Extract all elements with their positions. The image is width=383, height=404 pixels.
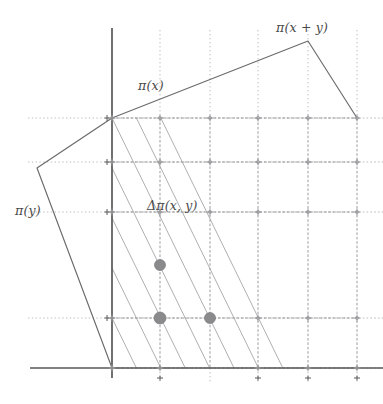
lattice-point-0 <box>109 115 116 122</box>
filled-lattice-dot-1 <box>155 260 166 271</box>
filled-lattice-points-layer <box>154 260 216 325</box>
lattice-point-9 <box>255 159 262 166</box>
lattice-point-22 <box>109 365 116 372</box>
diagonal-line-0 <box>161 118 283 368</box>
dotted-grid-layer <box>28 30 383 384</box>
filled-lattice-dot-2 <box>154 312 166 324</box>
lattice-point-23 <box>157 365 164 372</box>
diagonal-line-1 <box>136 118 258 368</box>
lattice-point-18 <box>109 315 116 322</box>
lattice-point-16 <box>305 209 312 216</box>
tick-marks-layer <box>105 115 361 381</box>
label-delta-pi-x-y: Δπ(x, y) <box>147 198 198 213</box>
lattice-point-7 <box>157 159 164 166</box>
lattice-point-19 <box>255 315 262 322</box>
diagonal-line-4 <box>112 218 185 368</box>
lattice-point-10 <box>305 159 312 166</box>
lattice-point-24 <box>255 365 262 372</box>
newton-polygon-figure: π(x + y) π(x) π(y) Δπ(x, y) <box>0 0 383 404</box>
lattice-point-2 <box>207 115 214 122</box>
lattice-point-25 <box>305 365 312 372</box>
label-pi-x: π(x) <box>138 78 164 93</box>
lattice-point-12 <box>109 209 116 216</box>
lattice-point-4 <box>305 115 312 122</box>
lattice-point-5 <box>354 115 361 122</box>
diagonal-lines-layer <box>112 118 283 368</box>
lattice-point-21 <box>354 315 361 322</box>
lattice-point-3 <box>255 115 262 122</box>
lattice-point-15 <box>255 209 262 216</box>
lattice-points-layer <box>109 115 361 372</box>
lattice-point-17 <box>354 209 361 216</box>
lattice-point-20 <box>305 315 312 322</box>
lattice-point-6 <box>109 159 116 166</box>
diagonal-line-6 <box>112 318 136 368</box>
filled-lattice-dot-3 <box>205 313 216 324</box>
diagonal-line-2 <box>112 118 234 368</box>
lattice-point-26 <box>354 365 361 372</box>
label-pi-y: π(y) <box>15 203 41 218</box>
lattice-point-11 <box>354 159 361 166</box>
label-pi-x-plus-y: π(x + y) <box>276 20 328 35</box>
lattice-point-8 <box>207 159 214 166</box>
